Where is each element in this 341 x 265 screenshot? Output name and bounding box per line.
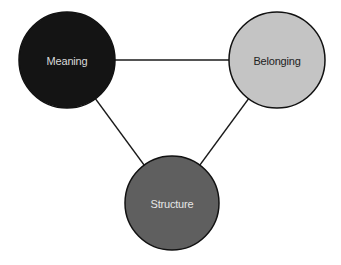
relationship-diagram: MeaningBelongingStructure bbox=[0, 0, 341, 265]
node-belonging: Belonging bbox=[229, 12, 325, 108]
node-label-meaning: Meaning bbox=[47, 55, 88, 67]
node-label-structure: Structure bbox=[151, 198, 194, 210]
node-label-belonging: Belonging bbox=[253, 55, 300, 67]
nodes-group: MeaningBelongingStructure bbox=[19, 12, 325, 250]
node-meaning: Meaning bbox=[19, 12, 115, 108]
node-structure: Structure bbox=[125, 156, 219, 250]
